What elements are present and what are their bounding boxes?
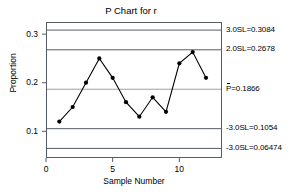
p-bar-symbol: P bbox=[226, 84, 231, 93]
y-tick-label: 0.2 bbox=[8, 77, 38, 87]
y-axis-title: Proportion bbox=[8, 38, 18, 108]
axis-ticks bbox=[42, 34, 179, 162]
data-point-1 bbox=[57, 119, 61, 123]
data-point-9 bbox=[164, 110, 168, 114]
y-tick-label: 0.1 bbox=[8, 126, 38, 136]
x-tick-label: 10 bbox=[167, 164, 191, 174]
data-point-7 bbox=[137, 115, 141, 119]
x-axis-title: Sample Number bbox=[46, 176, 222, 186]
data-point-6 bbox=[124, 100, 128, 104]
data-point-11 bbox=[191, 50, 195, 54]
data-point-4 bbox=[97, 56, 101, 60]
limit-label-lower-3-sigma: -3.0SL=0.06474 bbox=[226, 143, 282, 152]
series-polyline bbox=[59, 52, 206, 121]
x-tick-label: 0 bbox=[34, 164, 58, 174]
data-point-5 bbox=[111, 76, 115, 80]
limit-value: =0.1866 bbox=[231, 84, 259, 93]
limit-label-upper-2-sigma: 2.0SL=0.2678 bbox=[226, 44, 275, 53]
limit-label-center-line: P=0.1866 bbox=[226, 84, 260, 93]
limit-label-lower-2-sigma: -3.0SL=0.1054 bbox=[226, 123, 277, 132]
control-limit-lines bbox=[47, 30, 221, 148]
x-tick-label: 5 bbox=[101, 164, 125, 174]
data-point-2 bbox=[71, 105, 75, 109]
y-tick-label: 0.3 bbox=[8, 29, 38, 39]
data-point-10 bbox=[177, 61, 181, 65]
p-chart-figure: P Chart for r Proportion Sample Number 0… bbox=[0, 0, 301, 195]
data-series-line bbox=[59, 52, 206, 121]
data-point-3 bbox=[84, 81, 88, 85]
limit-label-upper-3-sigma: 3.0SL=0.3084 bbox=[226, 25, 275, 34]
data-point-8 bbox=[151, 95, 155, 99]
data-point-12 bbox=[204, 76, 208, 80]
data-series-markers bbox=[57, 50, 208, 124]
